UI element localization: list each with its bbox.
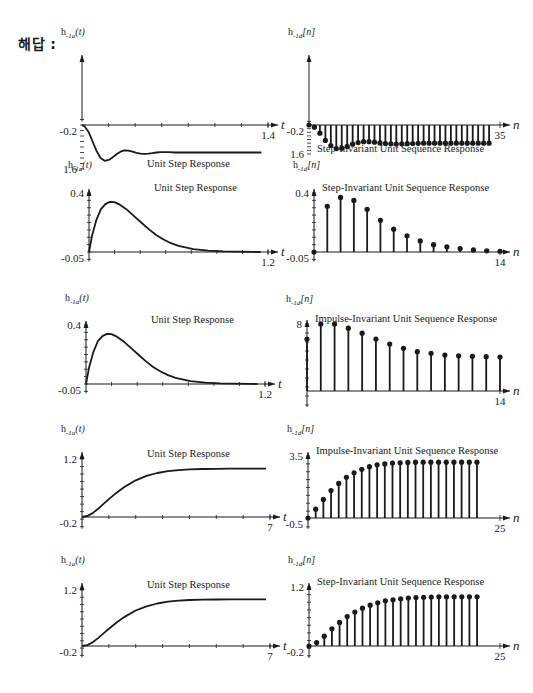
stem-marker [459, 594, 464, 599]
r5-right-svg: h-1d[n]1.2-0.225nStep-Invariant Unit Seq… [0, 0, 533, 693]
chart-title: Step-Invariant Unit Sequence Response [317, 576, 484, 587]
y-axis-arrow-icon [307, 583, 312, 590]
stem-marker [322, 634, 327, 639]
stem-marker [383, 598, 388, 603]
stem-marker [398, 596, 403, 601]
y-top-tick-label: 1.2 [290, 581, 304, 593]
x-end-tick-label: 25 [495, 650, 507, 662]
stem-marker [352, 609, 357, 614]
plot-r5-right: h-1d[n]1.2-0.225nStep-Invariant Unit Seq… [0, 0, 533, 693]
stem-marker [345, 614, 350, 619]
stem-marker [436, 594, 441, 599]
y-axis-label: h-1d[n] [288, 554, 315, 568]
stem-marker [413, 595, 418, 600]
stem-marker [337, 620, 342, 625]
stem-marker [429, 594, 434, 599]
stem-marker [390, 597, 395, 602]
stem-marker [314, 640, 319, 645]
stem-marker [452, 594, 457, 599]
stem-marker [406, 595, 411, 600]
stem-marker [474, 594, 479, 599]
stem-marker [421, 595, 426, 600]
stem-marker [329, 626, 334, 631]
stem-marker [368, 603, 373, 608]
stem-marker [375, 600, 380, 605]
stem-marker [360, 606, 365, 611]
x-axis-arrow-icon [503, 644, 510, 649]
y-bottom-tick-label: -0.2 [287, 646, 304, 658]
stem-marker [467, 594, 472, 599]
x-axis-label: n [513, 638, 520, 653]
stem-series [306, 594, 479, 648]
stem-marker [444, 594, 449, 599]
stem-marker [306, 643, 311, 648]
